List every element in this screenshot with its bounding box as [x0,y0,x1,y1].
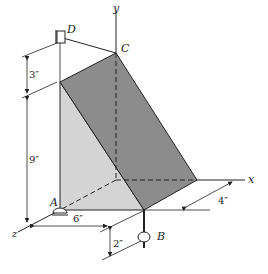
point-d-label: D [66,23,76,36]
dim-4-label: 4″ [218,195,228,206]
dim-3-label: 3″ [29,69,39,80]
support-d-icon [57,31,65,43]
y-axis-label: y [112,2,120,15]
plate-diagram: y x z D C 3″ 9″ A 6″ 2″ B 4″ [0,0,268,274]
point-c-label: C [121,42,130,55]
ext-top [22,43,57,57]
x-axis-label: x [248,173,255,186]
point-b-label: B [156,230,165,243]
z-axis-label: z [11,228,18,239]
dim-2-label: 2″ [113,238,123,249]
point-a-label: A [49,196,58,209]
dim-9-label: 9″ [29,154,39,165]
hinge-b-icon [138,232,150,242]
dim-6-label: 6″ [73,213,83,224]
ext-b-top [100,211,143,232]
cable-cd [63,38,116,53]
